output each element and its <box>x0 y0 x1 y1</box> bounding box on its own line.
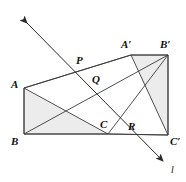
geometry-diagram: A B C A′ B′ C′ P Q R l <box>0 0 186 182</box>
segment-b-to-bprime <box>24 55 168 134</box>
segment-c-to-cprime <box>108 134 168 135</box>
label-point-r: R <box>128 121 135 132</box>
label-vertex-b-prime: B′ <box>160 39 170 50</box>
label-vertex-a-prime: A′ <box>121 39 131 50</box>
label-vertex-b: B <box>11 136 18 147</box>
label-vertex-c: C <box>100 119 107 130</box>
label-point-q: Q <box>92 74 100 85</box>
diagram-canvas <box>0 0 186 182</box>
label-point-p: P <box>76 55 83 66</box>
label-vertex-c-prime: C′ <box>170 136 180 147</box>
label-line-l: l <box>171 165 174 175</box>
label-vertex-a: A <box>11 79 18 90</box>
line-l <box>27 23 163 161</box>
